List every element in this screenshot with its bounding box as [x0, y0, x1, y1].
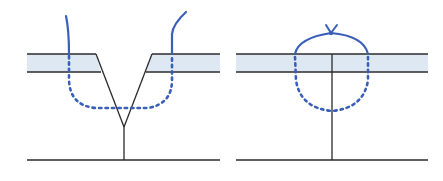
left-tissue-band-right: [146, 54, 220, 72]
diagram-svg: [0, 0, 443, 181]
left-thread-tail-right: [172, 12, 186, 54]
v-wound-right-edge: [124, 54, 152, 127]
left-tissue-band-left: [27, 54, 101, 72]
left-panel: [27, 12, 220, 160]
suture-diagram: [0, 0, 443, 181]
right-panel: [236, 25, 428, 160]
right-thread-surface-arc: [295, 33, 368, 54]
left-thread-tail-left: [66, 16, 69, 54]
v-wound-left-edge: [96, 54, 124, 127]
